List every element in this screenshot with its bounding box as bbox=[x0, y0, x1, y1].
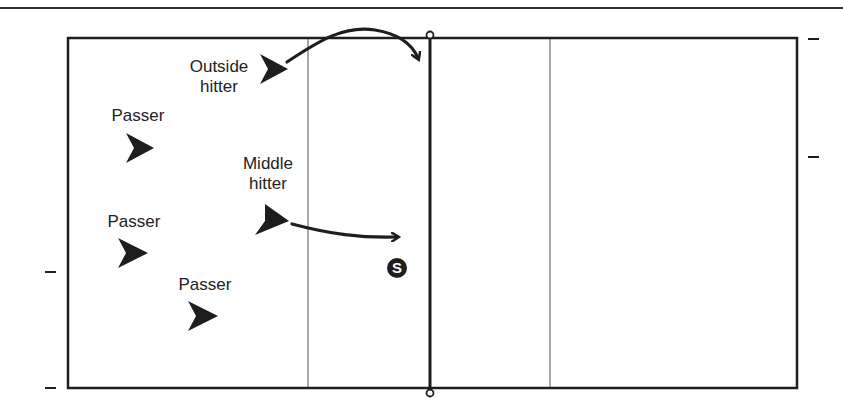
outside-hitter-label: Outside hitter bbox=[180, 57, 258, 97]
passer-2-label: Passer bbox=[96, 212, 172, 232]
label-line: Passer bbox=[167, 275, 243, 295]
passer-1-marker-icon bbox=[126, 133, 154, 163]
middle-hitter-marker-icon bbox=[255, 204, 289, 235]
label-line: Passer bbox=[100, 106, 176, 126]
setter-symbol: S bbox=[387, 258, 407, 278]
label-line: Passer bbox=[96, 212, 172, 232]
volleyball-court-diagram bbox=[0, 0, 843, 417]
label-line: Middle bbox=[234, 154, 302, 174]
net-post-top bbox=[427, 32, 434, 39]
passer-1-label: Passer bbox=[100, 106, 176, 126]
label-line: hitter bbox=[234, 174, 302, 194]
label-line: hitter bbox=[180, 77, 258, 97]
passer-3-marker-icon bbox=[188, 301, 218, 331]
court-boundary bbox=[68, 38, 797, 388]
net-post-bottom bbox=[427, 390, 434, 397]
middle-hitter-label: Middle hitter bbox=[234, 154, 302, 194]
passer-2-marker-icon bbox=[118, 238, 148, 268]
outside-hitter-path-arrow-icon bbox=[287, 29, 418, 62]
passer-3-label: Passer bbox=[167, 275, 243, 295]
label-line: Outside bbox=[180, 57, 258, 77]
outside-hitter-marker-icon bbox=[260, 54, 288, 84]
